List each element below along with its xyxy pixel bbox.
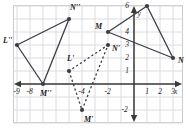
vertex-point xyxy=(106,30,110,34)
y-axis-label: y xyxy=(138,10,141,18)
vertex-label-N: N xyxy=(178,57,184,65)
y-tick-label-1: 1 xyxy=(125,67,129,75)
vertex-point xyxy=(80,108,84,112)
vertex-label-Mp: M' xyxy=(84,116,93,124)
vertex-label-Mpp: M'' xyxy=(40,90,52,98)
vertex-point xyxy=(106,43,110,47)
vertex-point xyxy=(41,82,45,86)
x-axis-label: x xyxy=(174,88,177,96)
vertex-point xyxy=(15,43,19,47)
vertex-label-Lpp: L'' xyxy=(3,37,12,45)
vertex-label-Npp: N'' xyxy=(70,4,80,12)
triangle-L-prime-M-prime-N-prime xyxy=(69,45,108,110)
x-tick-label-neg8: -8 xyxy=(26,88,32,96)
x-tick-label-2: 2 xyxy=(158,88,162,96)
vertex-point xyxy=(145,4,149,8)
vertex-label-M: M xyxy=(95,23,102,31)
vertex-point xyxy=(171,56,175,60)
x-tick-label-1: 1 xyxy=(145,88,149,96)
vertex-label-Lp: L' xyxy=(67,55,74,63)
x-tick-label-neg2: -2 xyxy=(104,88,110,96)
coordinate-plane-svg xyxy=(0,0,186,128)
y-tick-label-4: 4 xyxy=(125,28,129,36)
vertex-label-Np: N' xyxy=(112,45,120,53)
vertex-point xyxy=(67,17,71,21)
y-tick-label-3: 3 xyxy=(125,41,129,49)
y-tick-label-neg2: -2 xyxy=(121,106,127,114)
diagram-canvas: LMNL'M'N'L''M''N''-9-8-4-212364321-2xy xyxy=(0,0,186,128)
y-tick-label-6: 6 xyxy=(125,2,129,10)
x-tick-label-neg4: -4 xyxy=(78,88,84,96)
y-tick-label-2: 2 xyxy=(125,54,129,62)
vertex-point xyxy=(67,69,71,73)
x-tick-label-neg9: -9 xyxy=(13,88,19,96)
